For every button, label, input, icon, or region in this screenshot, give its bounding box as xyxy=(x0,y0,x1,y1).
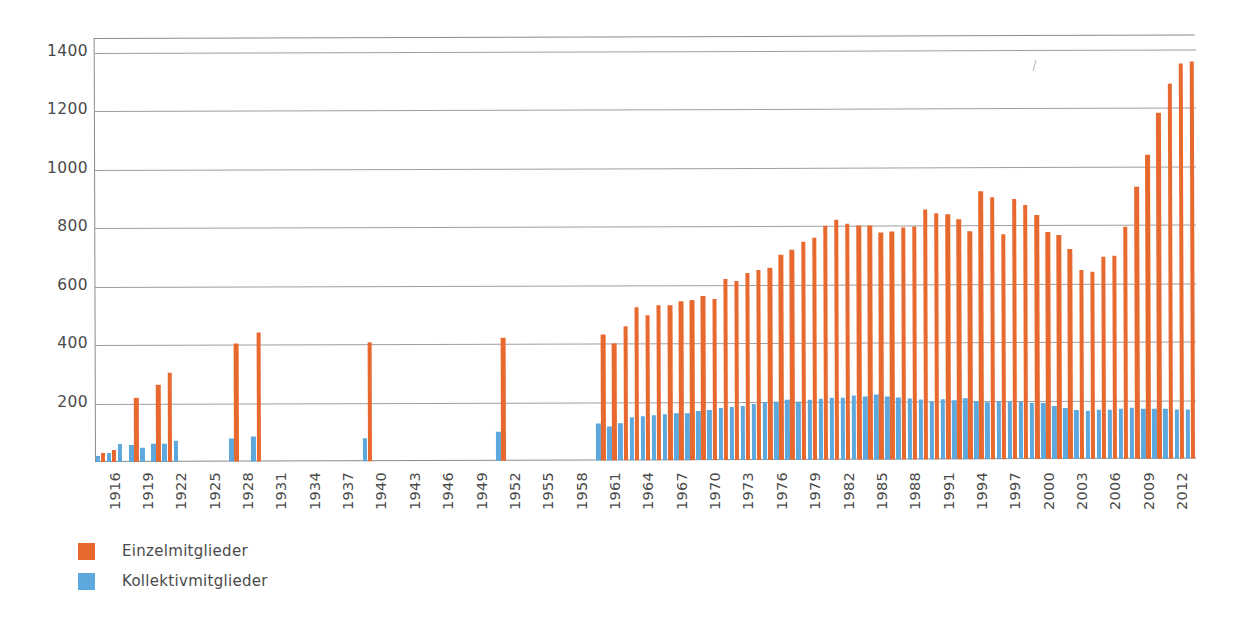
bar-kollektivmitglieder-2014 xyxy=(1185,409,1190,458)
bar-einzelmitglieder-1968 xyxy=(679,301,684,460)
bar-kollektivmitglieder-1930 xyxy=(251,437,256,462)
bar-kollektivmitglieder-1970 xyxy=(696,411,701,460)
bar-kollektivmitglieder-1979 xyxy=(796,401,801,459)
bar-kollektivmitglieder-1987 xyxy=(885,397,890,460)
bar-kollektivmitglieder-2010 xyxy=(1141,408,1146,458)
x-tick-2009: 2009 xyxy=(1141,472,1157,510)
bar-einzelmitglieder-1961 xyxy=(601,334,606,460)
bar-kollektivmitglieder-1917 xyxy=(107,453,111,462)
bar-kollektivmitglieder-1919 xyxy=(129,445,133,462)
bar-kollektivmitglieder-1916 xyxy=(96,456,100,462)
bar-einzelmitglieder-1975 xyxy=(756,270,761,460)
bar-kollektivmitglieder-1967 xyxy=(663,414,668,460)
bar-einzelmitglieder-1971 xyxy=(712,299,717,460)
bar-kollektivmitglieder-2013 xyxy=(1174,409,1179,458)
bar-kollektivmitglieder-1968 xyxy=(674,413,679,460)
x-tick-1943: 1943 xyxy=(407,472,423,510)
x-tick-1928: 1928 xyxy=(240,472,256,510)
bar-kollektivmitglieder-1994 xyxy=(963,398,968,459)
legend-item-1: Einzelmitglieder xyxy=(78,536,268,566)
legend-swatch-icon xyxy=(78,573,95,590)
bar-kollektivmitglieder-1985 xyxy=(863,397,868,460)
bar-kollektivmitglieder-1990 xyxy=(919,399,924,459)
bar-kollektivmitglieder-1999 xyxy=(1019,402,1024,459)
bar-kollektivmitglieder-1998 xyxy=(1008,401,1013,459)
x-tick-1973: 1973 xyxy=(740,472,756,510)
bar-einzelmitglieder-1973 xyxy=(734,281,739,460)
x-tick-1952: 1952 xyxy=(507,472,523,510)
bar-einzelmitglieder-1970 xyxy=(701,296,706,460)
bars-layer xyxy=(94,35,1196,462)
x-tick-2012: 2012 xyxy=(1174,472,1190,510)
bar-kollektivmitglieder-1993 xyxy=(952,400,957,459)
bar-kollektivmitglieder-1921 xyxy=(151,444,155,462)
year-group-1930 xyxy=(249,37,261,461)
membership-bar-chart: 200400600800100012001400 191619191922192… xyxy=(0,0,1236,636)
bar-kollektivmitglieder-2012 xyxy=(1163,409,1168,459)
bar-kollektivmitglieder-2008 xyxy=(1119,408,1124,458)
bar-einzelmitglieder-2006 xyxy=(1101,257,1106,459)
bar-einzelmitglieder-2005 xyxy=(1090,272,1095,459)
bar-kollektivmitglieder-1920 xyxy=(140,448,144,462)
bar-kollektivmitglieder-2011 xyxy=(1152,409,1157,459)
bar-kollektivmitglieder-1975 xyxy=(752,404,757,460)
y-tick-1400: 1400 xyxy=(47,42,88,60)
bar-kollektivmitglieder-1928 xyxy=(229,439,234,462)
x-tick-1994: 1994 xyxy=(974,472,990,510)
bar-kollektivmitglieder-1976 xyxy=(763,402,768,460)
year-group-1928 xyxy=(227,38,239,462)
x-tick-1925: 1925 xyxy=(207,472,223,510)
y-tick-1000: 1000 xyxy=(47,159,88,177)
x-tick-1988: 1988 xyxy=(907,472,923,510)
bar-kollektivmitglieder-2007 xyxy=(1108,410,1113,459)
y-tick-800: 800 xyxy=(57,217,88,235)
bar-kollektivmitglieder-1982 xyxy=(830,398,835,460)
bar-kollektivmitglieder-1978 xyxy=(785,400,790,460)
x-tick-2003: 2003 xyxy=(1074,472,1090,510)
bar-einzelmitglieder-1952 xyxy=(501,338,506,461)
bar-einzelmitglieder-1969 xyxy=(690,300,695,460)
y-tick-200: 200 xyxy=(57,393,88,411)
x-tick-1976: 1976 xyxy=(774,472,790,510)
bar-einzelmitglieder-1966 xyxy=(656,305,661,460)
y-tick-400: 400 xyxy=(57,334,88,352)
bar-einzelmitglieder-1974 xyxy=(745,273,750,460)
x-tick-1949: 1949 xyxy=(474,472,490,510)
bar-kollektivmitglieder-1992 xyxy=(941,399,946,459)
x-tick-1958: 1958 xyxy=(574,472,590,510)
bar-einzelmitglieder-1922 xyxy=(167,373,172,462)
bar-einzelmitglieder-2004 xyxy=(1079,269,1084,458)
bar-kollektivmitglieder-1974 xyxy=(741,406,746,460)
bar-kollektivmitglieder-1984 xyxy=(852,396,857,460)
x-tick-1961: 1961 xyxy=(607,472,623,510)
bar-kollektivmitglieder-1988 xyxy=(896,397,901,459)
bar-einzelmitglieder-1940 xyxy=(367,342,372,461)
bar-kollektivmitglieder-2001 xyxy=(1041,403,1046,459)
bar-einzelmitglieder-1964 xyxy=(634,308,639,461)
bar-kollektivmitglieder-1962 xyxy=(607,426,612,461)
y-tick-600: 600 xyxy=(57,276,88,294)
bar-kollektivmitglieder-1989 xyxy=(907,399,912,460)
bar-einzelmitglieder-1916 xyxy=(101,453,105,462)
bar-kollektivmitglieder-1971 xyxy=(707,410,712,460)
bar-kollektivmitglieder-1977 xyxy=(774,401,779,459)
bar-einzelmitglieder-1919 xyxy=(134,398,139,462)
x-tick-1934: 1934 xyxy=(307,472,323,510)
x-tick-1955: 1955 xyxy=(540,472,556,510)
legend-label: Einzelmitglieder xyxy=(122,542,248,560)
x-tick-1964: 1964 xyxy=(640,472,656,510)
bar-einzelmitglieder-1967 xyxy=(668,305,673,460)
bar-einzelmitglieder-1972 xyxy=(723,279,728,460)
x-tick-1946: 1946 xyxy=(440,472,456,510)
bar-einzelmitglieder-2007 xyxy=(1112,256,1117,459)
year-group-1923 xyxy=(172,38,184,462)
x-tick-1985: 1985 xyxy=(874,472,890,510)
bar-einzelmitglieder-1965 xyxy=(645,316,650,461)
bar-kollektivmitglieder-1996 xyxy=(985,402,990,459)
bar-kollektivmitglieder-2000 xyxy=(1030,403,1035,459)
bar-kollektivmitglieder-1980 xyxy=(807,400,812,460)
bar-einzelmitglieder-1930 xyxy=(256,333,261,462)
y-tick-1200: 1200 xyxy=(47,100,88,118)
x-tick-1967: 1967 xyxy=(674,472,690,510)
bar-kollektivmitglieder-1964 xyxy=(629,417,634,460)
